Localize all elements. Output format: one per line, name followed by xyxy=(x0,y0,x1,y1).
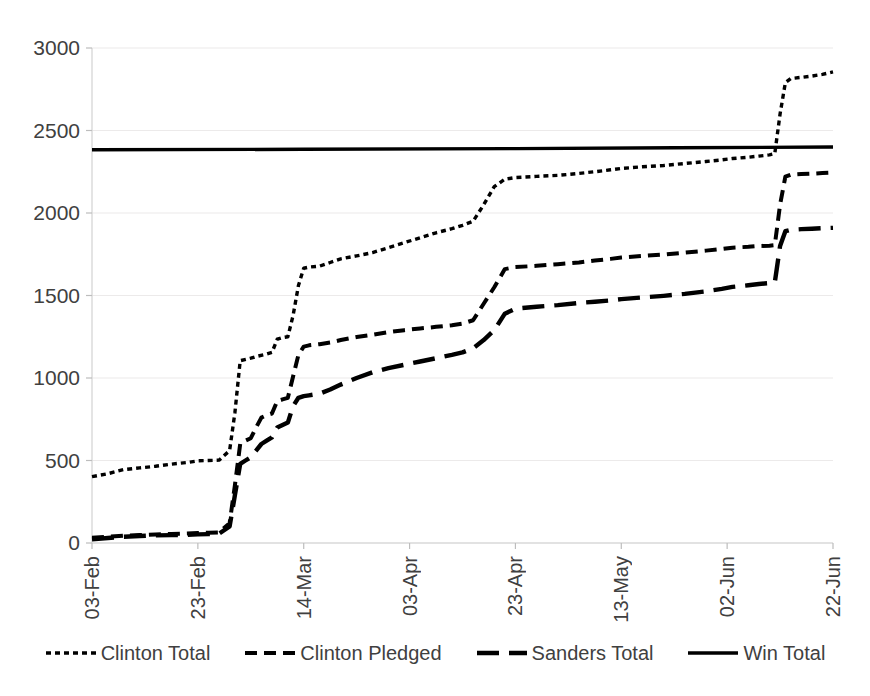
legend-label: Sanders Total xyxy=(532,642,654,665)
chart-root: 050010001500200025003000 03-Feb23-Feb14-… xyxy=(0,0,870,696)
chart-legend: Clinton TotalClinton PledgedSanders Tota… xyxy=(0,636,870,670)
legend-label: Clinton Pledged xyxy=(300,642,441,665)
x-tick-label: 03-Feb xyxy=(81,556,104,619)
x-axis: 03-Feb23-Feb14-Mar03-Apr23-Apr13-May02-J… xyxy=(0,0,870,696)
x-tick-label: 13-May xyxy=(610,556,633,623)
x-tick-label: 23-Feb xyxy=(187,556,210,619)
legend-item[interactable]: Clinton Total xyxy=(45,642,211,665)
x-tick-label: 02-Jun xyxy=(716,556,739,617)
x-tick-label: 03-Apr xyxy=(399,556,422,616)
x-tick-label: 22-Jun xyxy=(822,556,845,617)
legend-label: Win Total xyxy=(743,642,825,665)
legend-swatch-dashed-long-icon xyxy=(476,646,528,660)
legend-swatch-dotted-icon xyxy=(45,646,97,660)
legend-item[interactable]: Clinton Pledged xyxy=(244,642,441,665)
legend-label: Clinton Total xyxy=(101,642,211,665)
x-tick-label: 23-Apr xyxy=(504,556,527,616)
legend-item[interactable]: Win Total xyxy=(687,642,825,665)
legend-item[interactable]: Sanders Total xyxy=(476,642,654,665)
legend-swatch-dashed-medium-icon xyxy=(244,646,296,660)
x-tick-label: 14-Mar xyxy=(293,556,316,619)
legend-swatch-solid-icon xyxy=(687,646,739,660)
